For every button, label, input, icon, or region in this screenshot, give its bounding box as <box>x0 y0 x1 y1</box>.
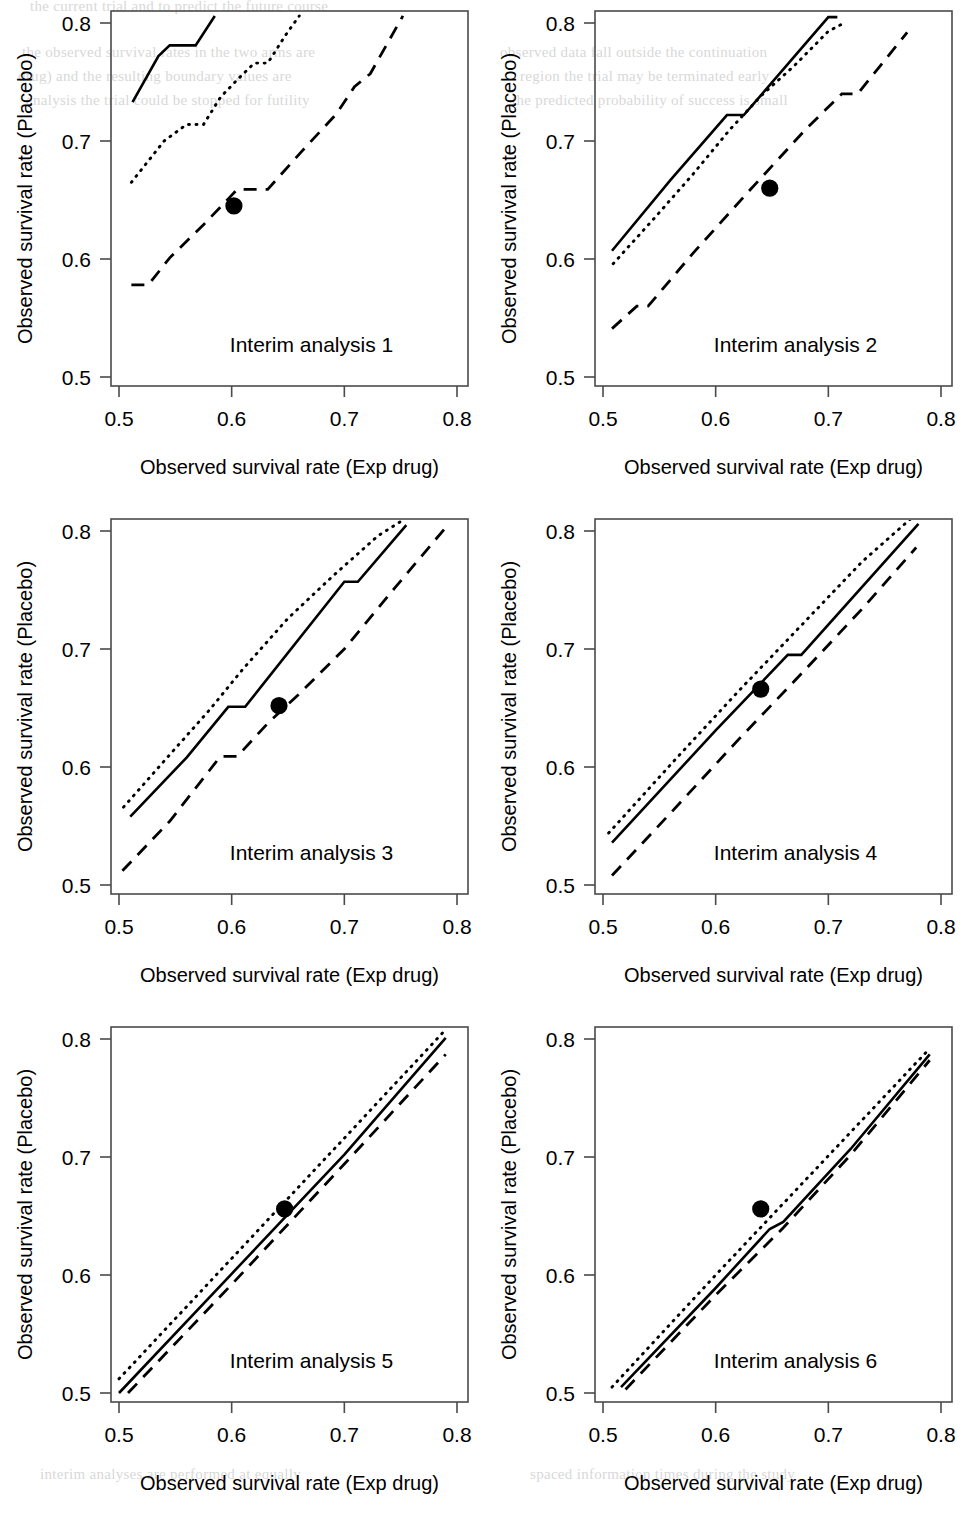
x-axis-title: Observed survival rate (Exp drug) <box>624 964 923 986</box>
series-line-dotted <box>613 24 842 264</box>
x-tick-label: 0.6 <box>701 1423 730 1446</box>
y-tick-label: 0.8 <box>62 1028 91 1051</box>
y-tick-label: 0.8 <box>546 1028 575 1051</box>
x-tick-label: 0.6 <box>217 407 246 430</box>
panel-title: Interim analysis 4 <box>714 841 878 864</box>
plot-frame <box>595 11 952 386</box>
observed-point-marker <box>276 1200 293 1217</box>
x-tick-label: 0.7 <box>330 1423 359 1446</box>
x-tick-label: 0.5 <box>104 407 133 430</box>
y-tick-label: 0.7 <box>546 638 575 661</box>
plot-frame <box>111 11 468 386</box>
y-tick-label: 0.5 <box>546 1382 575 1405</box>
plot-area-3: 0.50.60.70.80.50.60.70.8Interim analysis… <box>0 508 484 1008</box>
x-tick-label: 0.7 <box>330 915 359 938</box>
y-tick-label: 0.5 <box>62 366 91 389</box>
series-line-solid <box>133 16 215 102</box>
panel-title: Interim analysis 1 <box>230 333 393 356</box>
x-tick-label: 0.8 <box>926 407 955 430</box>
series-line-dotted <box>131 16 299 182</box>
panel-title: Interim analysis 3 <box>230 841 393 864</box>
x-tick-label: 0.5 <box>588 915 617 938</box>
series-group <box>131 16 403 285</box>
x-tick-label: 0.8 <box>926 1423 955 1446</box>
series-line-solid <box>621 1054 930 1387</box>
y-tick-label: 0.7 <box>62 130 91 153</box>
x-tick-label: 0.7 <box>814 1423 843 1446</box>
series-line-dashed <box>131 16 403 285</box>
panel-interim-analysis-2: 0.50.60.70.80.50.60.70.8Interim analysis… <box>484 0 968 500</box>
plot-frame <box>595 1027 952 1402</box>
x-tick-label: 0.8 <box>926 915 955 938</box>
x-axis-title: Observed survival rate (Exp drug) <box>624 456 923 478</box>
x-axis-title: Observed survival rate (Exp drug) <box>140 964 439 986</box>
y-tick-label: 0.8 <box>546 12 575 35</box>
panel-interim-analysis-5: 0.50.60.70.80.50.60.70.8Interim analysis… <box>0 1016 484 1516</box>
x-tick-label: 0.5 <box>104 1423 133 1446</box>
observed-point-marker <box>225 197 242 214</box>
x-axis-title: Observed survival rate (Exp drug) <box>140 456 439 478</box>
series-line-dashed <box>612 32 907 328</box>
y-tick-label: 0.6 <box>62 1264 91 1287</box>
panel-interim-analysis-4: 0.50.60.70.80.50.60.70.8Interim analysis… <box>484 508 968 1008</box>
series-line-solid <box>130 525 406 816</box>
plot-area-1: 0.50.60.70.80.50.60.70.8Interim analysis… <box>0 0 484 500</box>
y-tick-label: 0.6 <box>546 756 575 779</box>
y-tick-label: 0.7 <box>546 1146 575 1169</box>
series-group <box>612 1048 930 1389</box>
series-group <box>612 17 907 329</box>
y-tick-label: 0.5 <box>546 366 575 389</box>
series-line-dashed <box>612 548 916 876</box>
x-tick-label: 0.8 <box>442 915 471 938</box>
plot-frame <box>111 519 468 894</box>
y-tick-label: 0.8 <box>62 520 91 543</box>
figure-canvas: the current trial and to predict the fut… <box>0 0 968 1526</box>
series-line-dotted <box>612 1048 930 1387</box>
x-tick-label: 0.6 <box>701 407 730 430</box>
panel-interim-analysis-1: 0.50.60.70.80.50.60.70.8Interim analysis… <box>0 0 484 500</box>
x-tick-label: 0.5 <box>588 1423 617 1446</box>
y-tick-label: 0.6 <box>546 248 575 271</box>
plot-area-2: 0.50.60.70.80.50.60.70.8Interim analysis… <box>484 0 968 500</box>
observed-point-marker <box>752 681 769 698</box>
panel-title: Interim analysis 2 <box>714 333 877 356</box>
y-tick-label: 0.8 <box>62 12 91 35</box>
y-axis-title: Observed survival rate (Placebo) <box>14 561 36 852</box>
x-tick-label: 0.7 <box>814 407 843 430</box>
x-tick-label: 0.7 <box>814 915 843 938</box>
plot-area-4: 0.50.60.70.80.50.60.70.8Interim analysis… <box>484 508 968 1008</box>
y-axis-title: Observed survival rate (Placebo) <box>14 53 36 344</box>
y-tick-label: 0.6 <box>546 1264 575 1287</box>
x-axis-title: Observed survival rate (Exp drug) <box>624 1472 923 1494</box>
y-tick-label: 0.5 <box>546 874 575 897</box>
x-tick-label: 0.5 <box>104 915 133 938</box>
observed-point-marker <box>761 180 778 197</box>
y-tick-label: 0.5 <box>62 1382 91 1405</box>
x-axis-title: Observed survival rate (Exp drug) <box>140 1472 439 1494</box>
x-tick-label: 0.6 <box>217 1423 246 1446</box>
series-line-dotted <box>609 517 913 833</box>
series-group <box>119 1032 446 1393</box>
y-axis-title: Observed survival rate (Placebo) <box>498 53 520 344</box>
panel-title: Interim analysis 6 <box>714 1349 877 1372</box>
x-tick-label: 0.5 <box>588 407 617 430</box>
y-tick-label: 0.6 <box>62 756 91 779</box>
plot-area-6: 0.50.60.70.80.50.60.70.8Interim analysis… <box>484 1016 968 1516</box>
y-tick-label: 0.7 <box>546 130 575 153</box>
y-tick-label: 0.6 <box>62 248 91 271</box>
x-tick-label: 0.6 <box>217 915 246 938</box>
panel-interim-analysis-6: 0.50.60.70.80.50.60.70.8Interim analysis… <box>484 1016 968 1516</box>
y-tick-label: 0.7 <box>62 638 91 661</box>
series-line-solid <box>612 17 837 251</box>
observed-point-marker <box>752 1200 769 1217</box>
x-tick-label: 0.8 <box>442 407 471 430</box>
plot-area-5: 0.50.60.70.80.50.60.70.8Interim analysis… <box>0 1016 484 1516</box>
y-axis-title: Observed survival rate (Placebo) <box>498 561 520 852</box>
x-tick-label: 0.7 <box>330 407 359 430</box>
y-axis-title: Observed survival rate (Placebo) <box>14 1069 36 1360</box>
series-line-dashed <box>128 1054 446 1393</box>
panel-title: Interim analysis 5 <box>230 1349 393 1372</box>
series-line-dotted <box>124 522 401 808</box>
y-tick-label: 0.8 <box>546 520 575 543</box>
series-group <box>609 517 919 876</box>
